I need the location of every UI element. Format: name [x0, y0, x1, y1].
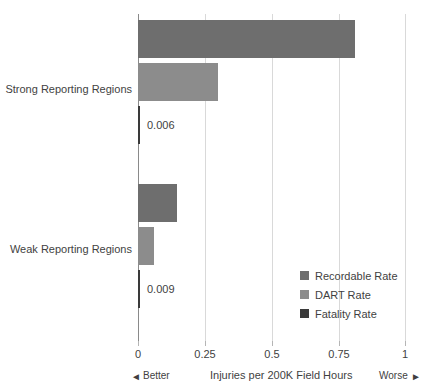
- bar-chart: 0.006 0.009 Strong Reporting Regions Wea…: [0, 0, 424, 392]
- legend-item-fatality-rate[interactable]: Fatality Rate: [300, 304, 398, 323]
- tick-mark-1: [405, 341, 406, 346]
- bar-strong-fatality[interactable]: [138, 106, 140, 144]
- category-label-weak-reporting-regions: Weak Reporting Regions: [0, 243, 132, 255]
- bar-weak-recordable[interactable]: [138, 184, 177, 222]
- direction-hint-worse-label: Worse: [379, 370, 408, 381]
- bar-weak-fatality[interactable]: [138, 270, 140, 308]
- bar-label-weak-fatality: 0.009: [147, 270, 175, 308]
- legend: Recordable Rate DART Rate Fatality Rate: [300, 266, 398, 323]
- category-label-strong-reporting-regions: Strong Reporting Regions: [0, 83, 132, 95]
- x-tick-label-0.75: 0.75: [328, 348, 349, 360]
- legend-label-fatality-rate: Fatality Rate: [315, 308, 377, 320]
- x-tick-label-0: 0: [135, 348, 141, 360]
- gridline-1: [405, 14, 406, 341]
- bar-weak-dart[interactable]: [138, 227, 154, 265]
- bar-strong-recordable[interactable]: [138, 20, 355, 58]
- gridline-0.5: [272, 14, 273, 341]
- bar-strong-dart[interactable]: [138, 63, 218, 101]
- legend-swatch-icon-recordable-rate: [300, 271, 309, 280]
- legend-label-recordable-rate: Recordable Rate: [315, 270, 398, 282]
- x-tick-label-0.25: 0.25: [194, 348, 215, 360]
- legend-swatch-icon-fatality-rate: [300, 309, 309, 318]
- tick-mark-0.5: [272, 341, 273, 346]
- x-axis-title: Injuries per 200K Field Hours: [210, 369, 352, 381]
- bar-label-strong-fatality: 0.006: [147, 106, 175, 144]
- direction-hint-better-label: Better: [143, 370, 170, 381]
- direction-hint-better-arrow-icon: ◄: [131, 371, 141, 382]
- tick-mark-0: [138, 341, 139, 346]
- x-tick-label-1: 1: [402, 348, 408, 360]
- legend-swatch-icon-dart-rate: [300, 290, 309, 299]
- legend-item-recordable-rate[interactable]: Recordable Rate: [300, 266, 398, 285]
- x-tick-label-0.5: 0.5: [264, 348, 279, 360]
- tick-mark-0.75: [339, 341, 340, 346]
- legend-label-dart-rate: DART Rate: [315, 289, 371, 301]
- legend-item-dart-rate[interactable]: DART Rate: [300, 285, 398, 304]
- tick-mark-0.25: [205, 341, 206, 346]
- direction-hint-worse-arrow-icon: ►: [411, 371, 421, 382]
